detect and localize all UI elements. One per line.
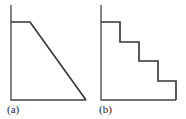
panel-b-label: (b) bbox=[99, 103, 112, 115]
panel-a-axes bbox=[11, 5, 86, 100]
panel-a-curve bbox=[11, 22, 86, 100]
diagram-canvas bbox=[0, 0, 186, 119]
panel-a-label: (a) bbox=[7, 103, 19, 115]
panel-a bbox=[11, 5, 86, 100]
panel-b-curve bbox=[101, 22, 176, 100]
panel-b bbox=[101, 5, 176, 100]
